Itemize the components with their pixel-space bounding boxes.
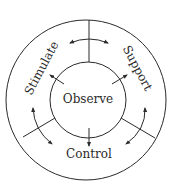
segment-label-control: Control — [66, 147, 112, 161]
segment-label-stimulate: Stimulate — [21, 39, 61, 98]
arrow-to-support-icon — [112, 75, 127, 84]
divider-lower-right — [121, 118, 155, 138]
arrow-to-stimulate-icon — [50, 75, 64, 84]
segment-label-support: Support — [120, 43, 155, 93]
cycle-diagram: Observe Stimulate Support Control — [0, 0, 172, 184]
center-label: Observe — [63, 92, 113, 106]
divider-lower-left — [23, 118, 55, 137]
